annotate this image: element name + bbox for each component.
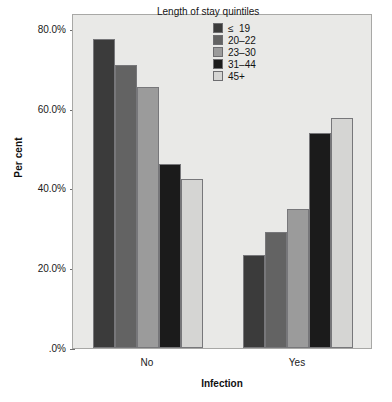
y-axis-tick-label: 60.0%: [14, 105, 66, 115]
legend: Length of stay quintiles ≤ 1920–2223–303…: [155, 6, 300, 82]
legend-item-label: 23–30: [228, 47, 256, 58]
bar: [243, 255, 265, 348]
bar: [331, 118, 353, 349]
x-axis-title: Infection: [72, 378, 372, 389]
legend-swatch-icon: [213, 71, 223, 81]
legend-item: 20–22: [213, 34, 300, 46]
bar-chart: Per cent .0%20.0%40.0%60.0%80.0% Length …: [0, 0, 392, 402]
bar: [287, 209, 309, 348]
y-axis-tick-label: .0%: [14, 344, 66, 354]
bar: [159, 164, 181, 348]
x-axis-tick-label: Yes: [267, 357, 327, 368]
y-axis-tick-label: 40.0%: [14, 184, 66, 194]
bar: [93, 39, 115, 348]
legend-swatch-icon: [213, 59, 223, 69]
legend-item-label: 31–44: [228, 59, 256, 70]
legend-item: ≤ 19: [213, 22, 300, 34]
x-axis-tick-label: No: [117, 357, 177, 368]
bar: [115, 65, 137, 348]
legend-item-label: ≤ 19: [228, 23, 250, 34]
legend-item: 31–44: [213, 58, 300, 70]
bar: [309, 133, 331, 348]
legend-item: 45+: [213, 70, 300, 82]
y-axis-tick-label: 80.0%: [14, 25, 66, 35]
y-axis-ticks: .0%20.0%40.0%60.0%80.0%: [12, 0, 66, 402]
legend-swatch-icon: [213, 23, 223, 33]
legend-items: ≤ 1920–2223–3031–4445+: [155, 22, 300, 82]
y-axis-tick-label: 20.0%: [14, 264, 66, 274]
legend-swatch-icon: [213, 47, 223, 57]
bar: [181, 179, 203, 348]
legend-item: 23–30: [213, 46, 300, 58]
legend-item-label: 45+: [228, 71, 245, 82]
bar: [137, 87, 159, 348]
legend-item-label: 20–22: [228, 35, 256, 46]
legend-swatch-icon: [213, 35, 223, 45]
y-axis-tick-mark: [70, 349, 75, 350]
legend-title: Length of stay quintiles: [155, 6, 300, 17]
bar: [265, 232, 287, 348]
